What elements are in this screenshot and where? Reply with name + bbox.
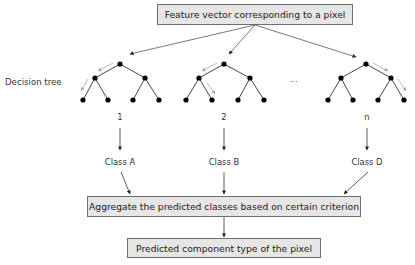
decision-tree-n	[325, 61, 406, 102]
tree-index-2: 2	[221, 112, 226, 122]
decision-tree-label: Decision tree	[5, 77, 62, 87]
class-label-a: Class A	[105, 157, 135, 167]
random-forest-diagram	[0, 0, 415, 265]
class-to-aggregate-arrows	[121, 172, 368, 194]
output-box: Predicted component type of the pixel	[127, 238, 321, 258]
ellipsis-label: ...	[290, 75, 298, 84]
decision-tree-2	[183, 61, 266, 102]
decision-tree-1	[80, 61, 161, 102]
tree-index-1: 1	[117, 112, 122, 122]
aggregate-box: Aggregate the predicted classes based on…	[87, 196, 361, 217]
feature-vector-box: Feature vector corresponding to a pixel	[157, 4, 353, 25]
class-label-d: Class D	[351, 157, 382, 167]
input-arrows	[130, 25, 356, 57]
tree-index-n: n	[364, 112, 369, 122]
class-label-b: Class B	[209, 157, 239, 167]
tree-to-class-arrows	[120, 128, 367, 150]
